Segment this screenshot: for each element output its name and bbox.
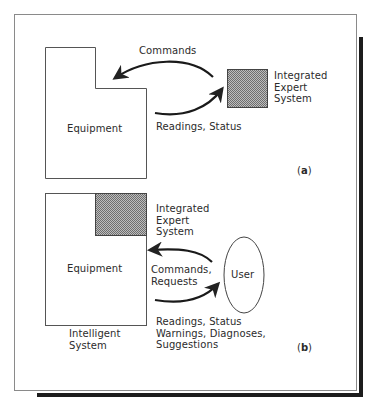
- frame-shadow-bottom: [37, 393, 363, 397]
- intelligent-system-caption: Intelligent System: [69, 328, 121, 351]
- expert-system-label-b: Integrated Expert System: [156, 203, 209, 238]
- equipment-label-b: Equipment: [67, 263, 122, 275]
- user-label: User: [231, 269, 254, 281]
- expert-system-box-b: [96, 194, 147, 236]
- expert-system-box-a: [228, 70, 268, 108]
- commands-requests-label-b: Commands, Requests: [151, 264, 212, 287]
- panel-b-tag: (b): [297, 342, 312, 353]
- readings-warnings-label-b: Readings, Status Warnings, Diagnoses, Su…: [156, 316, 266, 351]
- frame-shadow-right: [359, 37, 363, 397]
- panel-a-tag: (a): [297, 165, 312, 176]
- equipment-label-a: Equipment: [67, 123, 122, 135]
- expert-system-label-a: Integrated Expert System: [274, 70, 327, 105]
- commands-label-a: Commands: [139, 45, 196, 57]
- readings-status-label-a: Readings, Status: [156, 121, 242, 133]
